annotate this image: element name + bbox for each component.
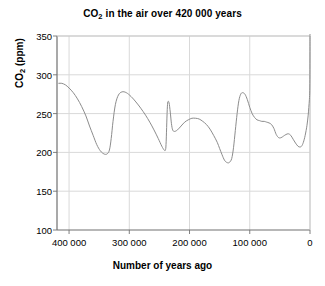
plot-area <box>0 0 325 286</box>
y-tick-label: 300 <box>20 69 52 80</box>
y-tick-label: 350 <box>20 31 52 42</box>
data-series-line <box>59 34 310 162</box>
x-tick-label: 300 000 <box>112 237 146 248</box>
x-tick-label: 400 000 <box>52 237 86 248</box>
chart-figure: CO2 in the air over 420 000 years CO2 (p… <box>0 0 325 286</box>
y-tick-label: 200 <box>20 147 52 158</box>
y-axis-label: CO2 (ppm) <box>14 38 25 88</box>
y-tick-label: 150 <box>20 186 52 197</box>
x-axis-label: Number of years ago <box>0 260 325 271</box>
y-axis-label-rest: (ppm) <box>14 38 25 69</box>
axis-ticks <box>53 36 310 234</box>
x-tick-label: 0 <box>307 237 312 248</box>
y-tick-label: 100 <box>20 225 52 236</box>
gridlines <box>57 36 310 230</box>
axis-lines <box>57 36 310 230</box>
x-tick-label: 100 000 <box>233 237 267 248</box>
y-tick-label: 250 <box>20 108 52 119</box>
x-tick-label: 200 000 <box>172 237 206 248</box>
